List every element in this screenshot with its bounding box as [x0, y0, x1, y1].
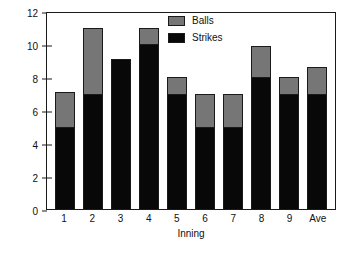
y-axis-tick-6: 6 — [32, 107, 47, 118]
bar-segment-balls — [167, 77, 187, 94]
x-axis-tick-label: 9 — [280, 213, 300, 224]
y-axis-tick-10: 10 — [27, 41, 47, 52]
bar-column — [83, 13, 103, 209]
chart-legend: Balls Strikes — [168, 15, 223, 43]
bar-segment-balls — [195, 94, 215, 127]
bar-column — [111, 13, 131, 209]
bar-segment-strikes — [279, 94, 299, 210]
legend-label-strikes: Strikes — [192, 32, 223, 43]
y-axis-tick-4: 4 — [32, 140, 47, 151]
bar-column — [307, 13, 327, 209]
bar-segment-balls — [139, 28, 159, 45]
y-axis-tick-mark — [42, 211, 47, 212]
bar-segment-balls — [307, 67, 327, 93]
bar-segment-balls — [279, 77, 299, 94]
legend-swatch-strikes-icon — [168, 33, 185, 43]
bar-segment-balls — [251, 46, 271, 77]
bar-segment-strikes — [251, 77, 271, 209]
bar-segment-balls — [83, 28, 103, 94]
bar-segment-balls — [55, 92, 75, 127]
y-axis-tick-0: 0 — [32, 206, 47, 217]
legend-item-balls: Balls — [168, 15, 223, 26]
x-axis-title: Inning — [46, 228, 336, 239]
y-axis-tick-label: 10 — [27, 41, 38, 52]
bar-column — [251, 13, 271, 209]
x-axis-tick-label: 1 — [54, 213, 74, 224]
y-axis-tick-label: 8 — [32, 74, 38, 85]
bar-segment-strikes — [139, 44, 159, 209]
x-axis-tick-label: 6 — [195, 213, 215, 224]
bar-column — [223, 13, 243, 209]
bar-segment-strikes — [223, 127, 243, 210]
x-axis-tick-label: 3 — [110, 213, 130, 224]
y-axis-tick-label: 4 — [32, 140, 38, 151]
legend-item-strikes: Strikes — [168, 32, 223, 43]
bar-segment-strikes — [83, 94, 103, 210]
y-axis-tick-12: 12 — [27, 8, 47, 19]
bar-segment-balls — [223, 94, 243, 127]
x-axis-tick-label: 7 — [223, 213, 243, 224]
y-axis-tick-label: 12 — [27, 8, 38, 19]
x-axis-tick-labels: 123456789Ave — [46, 213, 336, 224]
legend-label-balls: Balls — [192, 15, 214, 26]
bar-column — [139, 13, 159, 209]
y-axis-tick-label: 0 — [32, 206, 38, 217]
bar-column — [55, 13, 75, 209]
legend-swatch-balls-icon — [168, 16, 185, 26]
x-axis-tick-label: 2 — [82, 213, 102, 224]
x-axis-tick-label: Ave — [308, 213, 328, 224]
bar-column — [279, 13, 299, 209]
y-axis-tick-2: 2 — [32, 173, 47, 184]
bar-segment-strikes — [111, 59, 131, 209]
x-axis-tick-label: 8 — [251, 213, 271, 224]
bar-segment-strikes — [55, 127, 75, 210]
bar-segment-strikes — [167, 94, 187, 210]
y-axis-tick-label: 2 — [32, 173, 38, 184]
bar-segment-strikes — [307, 94, 327, 210]
y-axis-tick-label: 6 — [32, 107, 38, 118]
y-axis-tick-8: 8 — [32, 74, 47, 85]
x-axis-tick-label: 4 — [139, 213, 159, 224]
x-axis-tick-label: 5 — [167, 213, 187, 224]
pitches-per-inning-chart: Pitches 024681012 123456789Ave Inning Ba… — [0, 0, 348, 253]
bar-segment-strikes — [195, 127, 215, 210]
